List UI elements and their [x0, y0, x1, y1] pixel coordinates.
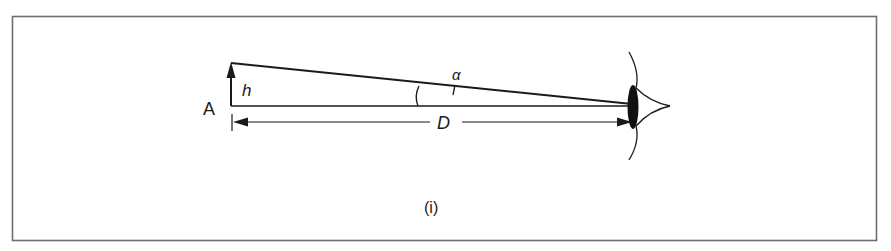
- eye-icon: [628, 52, 671, 160]
- label-point-a: A: [203, 99, 215, 119]
- distance-dimension: [232, 114, 632, 131]
- label-angle: α: [452, 66, 461, 83]
- figure-caption: (i): [424, 199, 438, 216]
- label-height: h: [242, 81, 251, 100]
- diagram-canvas: A h α D (i): [0, 0, 891, 251]
- sight-line: [231, 63, 632, 104]
- angle-arc: [416, 86, 419, 106]
- arrowhead-left-icon: [233, 118, 248, 127]
- object-arrow: [227, 62, 236, 106]
- eye-lens: [628, 85, 639, 129]
- label-distance: D: [437, 113, 450, 133]
